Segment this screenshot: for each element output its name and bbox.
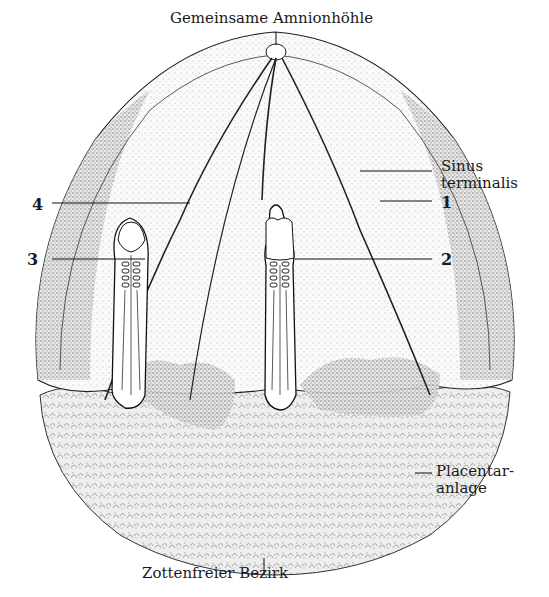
label-number-4: 4	[32, 196, 43, 213]
label-anlage: anlage	[436, 480, 487, 497]
illustration-drawing	[0, 0, 549, 597]
label-gemeinsame-amnionhoehle: Gemeinsame Amnionhöhle	[170, 10, 373, 27]
label-placentar: Placentar-	[436, 463, 514, 480]
label-number-1: 1	[441, 194, 452, 211]
amnion-cavity	[266, 44, 286, 60]
label-sinus: Sinus	[441, 158, 483, 175]
embryo-left	[112, 218, 148, 408]
embryo-right	[265, 205, 296, 410]
label-number-2: 2	[441, 251, 452, 268]
label-number-3: 3	[27, 251, 38, 268]
label-terminalis: terminalis	[441, 175, 518, 192]
embryo-illustration: Gemeinsame Amnionhöhle Sinus terminalis …	[0, 0, 549, 597]
label-zottenfreier-bezirk: Zottenfreier Bezirk	[142, 565, 288, 582]
